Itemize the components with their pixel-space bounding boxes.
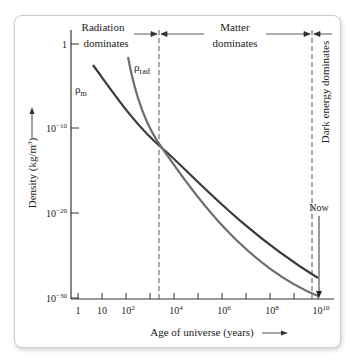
x-axis-label: Age of universe (years)	[150, 326, 254, 339]
y-tick-labels: 1 10−10 10−20 10−30	[46, 39, 67, 304]
x-ticks	[78, 293, 318, 299]
y-tick-label: 10−10	[46, 122, 67, 134]
now-label: Now	[309, 202, 329, 213]
y-tick-label: 10−20	[46, 207, 67, 219]
x-tick-label: 104	[169, 304, 183, 316]
x-tick-label: 1010	[313, 304, 331, 316]
rho-radiation-label: ρrad	[134, 61, 150, 76]
y-tick-label: 1	[62, 39, 67, 50]
dark-energy-label: Dark energy dominates	[319, 41, 331, 143]
x-axis-arrow-icon	[262, 331, 288, 336]
radiation-label-line1: Radiation	[82, 21, 125, 33]
y-tick-label: 10−30	[46, 292, 67, 304]
radiation-label-line2: dominates	[83, 37, 128, 49]
svg-text:Density (kg/m3): Density (kg/m3)	[26, 137, 39, 208]
y-axis-arrow-icon	[30, 107, 35, 138]
matter-label-line1: Matter	[220, 21, 250, 33]
x-tick-label: 106	[217, 304, 231, 316]
x-tick-label: 108	[265, 304, 279, 316]
x-tick-label: 10	[97, 305, 107, 316]
matter-label-line2: dominates	[212, 37, 257, 49]
rho-matter-curve	[93, 65, 318, 278]
density-chart: 1 10−10 10−20 10−30 1 10 102 104 106 108…	[0, 0, 350, 363]
y-axis-label: Density (kg/m3)	[26, 137, 39, 208]
x-tick-labels: 1 10 102 104 106 108 1010	[76, 304, 331, 316]
x-tick-label: 1	[76, 305, 81, 316]
rho-matter-label: ρm	[75, 83, 88, 98]
x-tick-label: 102	[121, 304, 135, 316]
